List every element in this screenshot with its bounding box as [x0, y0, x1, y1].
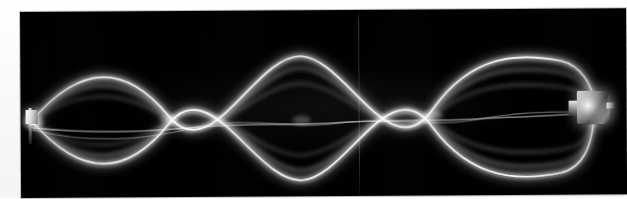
standing-wave-trace [20, 8, 627, 198]
photograph-image [20, 8, 627, 198]
envelope-upper [31, 54, 594, 131]
photograph-plate [20, 8, 627, 198]
equilibrium-chords [33, 111, 597, 139]
left-end-flare [25, 115, 43, 129]
right-end-flare [581, 96, 613, 120]
